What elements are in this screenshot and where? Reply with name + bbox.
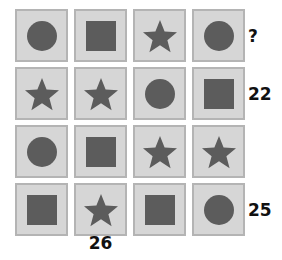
circle-icon — [25, 19, 59, 53]
row-sum-4: 25 — [248, 183, 282, 236]
cell-r4c3[interactable] — [133, 183, 186, 236]
cell-r2c1[interactable] — [15, 67, 68, 120]
star-icon — [24, 77, 60, 111]
puzzle-grid — [15, 9, 245, 236]
circle-icon — [202, 19, 236, 53]
cell-r3c4[interactable] — [192, 125, 245, 178]
cell-r4c2[interactable] — [74, 183, 127, 236]
row-sum-1: ? — [248, 9, 282, 62]
cell-r4c4[interactable] — [192, 183, 245, 236]
circle-icon — [202, 193, 236, 227]
circle-icon — [25, 135, 59, 169]
cell-r1c1[interactable] — [15, 9, 68, 62]
row-sum-2: 22 — [248, 67, 282, 120]
square-icon — [25, 193, 59, 227]
cell-r4c1[interactable] — [15, 183, 68, 236]
cell-r2c2[interactable] — [74, 67, 127, 120]
cell-r1c4[interactable] — [192, 9, 245, 62]
cell-r1c2[interactable] — [74, 9, 127, 62]
star-icon — [83, 193, 119, 227]
cell-r3c3[interactable] — [133, 125, 186, 178]
circle-icon — [143, 77, 177, 111]
column-sum-2: 26 — [74, 233, 127, 253]
cell-r1c3[interactable] — [133, 9, 186, 62]
cell-r3c2[interactable] — [74, 125, 127, 178]
square-icon — [143, 193, 177, 227]
square-icon — [84, 135, 118, 169]
cell-r3c1[interactable] — [15, 125, 68, 178]
cell-r2c3[interactable] — [133, 67, 186, 120]
shape-sum-puzzle: ? 22 25 26 — [0, 0, 282, 260]
star-icon — [201, 135, 237, 169]
star-icon — [142, 19, 178, 53]
star-icon — [142, 135, 178, 169]
square-icon — [202, 77, 236, 111]
cell-r2c4[interactable] — [192, 67, 245, 120]
star-icon — [83, 77, 119, 111]
square-icon — [84, 19, 118, 53]
